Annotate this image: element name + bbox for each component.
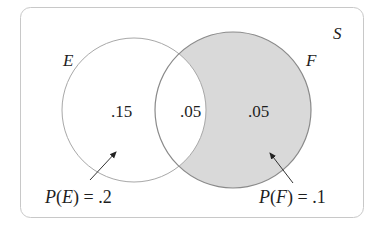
region-f-only-value: .05 xyxy=(248,102,269,121)
region-e-only-value: .15 xyxy=(111,102,132,121)
set-f-label: F xyxy=(305,51,317,70)
universe-label: S xyxy=(333,24,342,43)
region-intersection-value: .05 xyxy=(180,102,201,121)
set-e-label: E xyxy=(62,51,74,70)
pe-annotation: P(E) = .2 xyxy=(44,187,112,208)
pf-annotation: P(F) = .1 xyxy=(258,187,326,208)
venn-diagram: S E F .15 .05 .05 P(E) = .2 P(F) = .1 xyxy=(0,0,385,228)
